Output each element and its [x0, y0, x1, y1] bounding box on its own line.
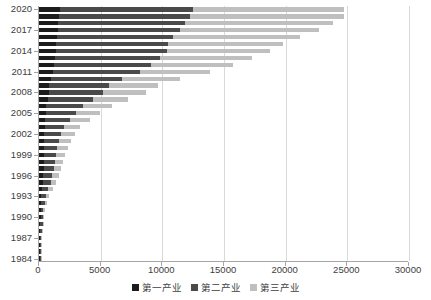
bar-row — [39, 49, 270, 53]
bar-row — [39, 180, 56, 184]
bar-segment — [190, 14, 344, 18]
bar-segment — [45, 118, 69, 122]
bar-segment — [56, 49, 167, 53]
bar-row — [39, 14, 344, 18]
bar-segment — [57, 146, 67, 150]
bar-row — [39, 243, 42, 247]
bar-row — [39, 139, 71, 143]
bar-segment — [44, 146, 57, 150]
bar-segment — [167, 49, 271, 53]
bars-layer — [39, 6, 408, 261]
legend-swatch-icon — [132, 284, 139, 291]
bar-segment — [39, 7, 60, 11]
bar-segment — [160, 56, 253, 60]
bar-row — [39, 229, 43, 233]
legend-swatch-icon — [250, 284, 257, 291]
bar-segment — [44, 166, 54, 170]
bar-segment — [60, 7, 193, 11]
y-axis-labels: 1984198719901993199619992002200520082011… — [0, 6, 36, 262]
bar-segment — [44, 160, 55, 164]
bar-segment — [59, 14, 190, 18]
chart-legend: 第一产业第二产业第三产业 — [0, 280, 431, 294]
bar-row — [39, 118, 90, 122]
bar-row — [39, 160, 63, 164]
bar-segment — [44, 139, 59, 143]
y-tick-label-2017: 2017 — [11, 25, 32, 35]
y-tick-label-1987: 1987 — [11, 233, 32, 243]
bar-segment — [51, 180, 56, 184]
bar-segment — [180, 28, 319, 32]
bar-segment — [140, 70, 210, 74]
bar-row — [39, 21, 333, 25]
bar-row — [39, 97, 128, 101]
bar-segment — [49, 90, 103, 94]
bar-row — [39, 83, 158, 87]
bar-segment — [45, 125, 65, 129]
bar-segment — [55, 160, 63, 164]
bar-segment — [103, 90, 146, 94]
bar-row — [39, 90, 146, 94]
stacked-bar-chart: 1984198719901993199619992002200520082011… — [0, 0, 431, 300]
x-axis-labels: 050001000015000200002500030000 — [0, 264, 431, 278]
bar-row — [39, 236, 42, 240]
bar-segment — [58, 21, 185, 25]
legend-item-3[interactable]: 第三产业 — [250, 280, 300, 294]
bar-row — [39, 104, 112, 108]
bar-segment — [59, 139, 71, 143]
bar-segment — [39, 83, 49, 87]
y-tick-label-2005: 2005 — [11, 108, 32, 118]
bar-segment — [43, 208, 45, 212]
bar-segment — [185, 21, 333, 25]
bar-segment — [39, 111, 46, 115]
bar-segment — [55, 56, 160, 60]
bar-segment — [46, 194, 49, 198]
y-tick-label-2020: 2020 — [11, 4, 32, 14]
bar-segment — [64, 125, 80, 129]
bar-segment — [54, 166, 61, 170]
bar-segment — [39, 35, 57, 39]
legend-item-1[interactable]: 第一产业 — [132, 280, 182, 294]
bar-segment — [43, 173, 52, 177]
legend-label: 第三产业 — [260, 280, 300, 294]
bar-segment — [39, 21, 58, 25]
gridline-30000 — [409, 6, 410, 261]
bar-row — [39, 256, 41, 260]
x-tick-25000 — [346, 262, 347, 266]
bar-segment — [173, 35, 300, 39]
bar-segment — [56, 42, 168, 46]
x-tick-15000 — [223, 262, 224, 266]
bar-segment — [122, 77, 180, 81]
bar-segment — [43, 180, 51, 184]
bar-segment — [43, 222, 44, 226]
bar-segment — [39, 97, 48, 101]
legend-item-2[interactable]: 第二产业 — [191, 280, 241, 294]
bar-segment — [48, 97, 93, 101]
legend-swatch-icon — [191, 284, 198, 291]
bar-segment — [48, 187, 52, 191]
bar-segment — [46, 104, 82, 108]
bar-row — [39, 146, 68, 150]
bar-segment — [42, 229, 43, 233]
bar-segment — [151, 63, 232, 67]
bar-row — [39, 215, 44, 219]
x-tick-10000 — [161, 262, 162, 266]
bar-segment — [41, 243, 42, 247]
bar-row — [39, 166, 61, 170]
x-tick-30000 — [408, 262, 409, 266]
bar-row — [39, 77, 180, 81]
bar-row — [39, 70, 210, 74]
bar-segment — [39, 56, 55, 60]
bar-row — [39, 249, 41, 253]
bar-segment — [41, 249, 42, 253]
bar-row — [39, 7, 344, 11]
bar-row — [39, 173, 59, 177]
y-tick-label-2014: 2014 — [11, 46, 32, 56]
y-tick-label-1990: 1990 — [11, 212, 32, 222]
bar-segment — [54, 63, 151, 67]
bar-row — [39, 222, 44, 226]
bar-row — [39, 194, 49, 198]
bar-segment — [39, 90, 49, 94]
bar-row — [39, 125, 80, 129]
bar-segment — [39, 49, 56, 53]
bar-segment — [83, 104, 112, 108]
